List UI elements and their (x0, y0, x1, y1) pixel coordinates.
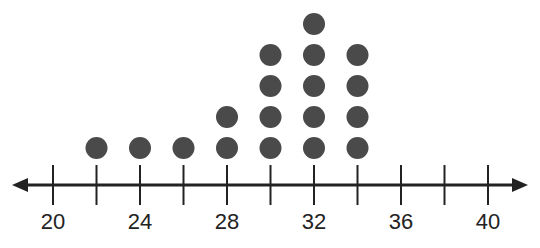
data-dot (347, 137, 369, 159)
right-arrow-icon (512, 178, 528, 192)
data-dot (260, 137, 282, 159)
data-dot (303, 106, 325, 128)
data-dot (216, 137, 238, 159)
tick-label: 32 (302, 209, 326, 234)
data-dot (347, 75, 369, 97)
data-dot (303, 13, 325, 35)
tick-label: 24 (128, 209, 152, 234)
data-dot (260, 106, 282, 128)
number-line-axis (12, 165, 528, 205)
data-dot (86, 137, 108, 159)
data-dot (260, 44, 282, 66)
tick-label: 36 (389, 209, 413, 234)
data-dot (303, 75, 325, 97)
data-dot (303, 137, 325, 159)
dots-group (86, 13, 369, 159)
dot-plot: 202428323640 (0, 0, 540, 248)
data-dot (173, 137, 195, 159)
tick-label: 28 (215, 209, 239, 234)
data-dot (129, 137, 151, 159)
data-dot (347, 44, 369, 66)
left-arrow-icon (12, 178, 28, 192)
tick-label: 40 (476, 209, 500, 234)
data-dot (303, 44, 325, 66)
tick-label: 20 (41, 209, 65, 234)
tick-labels-group: 202428323640 (41, 209, 500, 234)
data-dot (260, 75, 282, 97)
data-dot (216, 106, 238, 128)
data-dot (347, 106, 369, 128)
